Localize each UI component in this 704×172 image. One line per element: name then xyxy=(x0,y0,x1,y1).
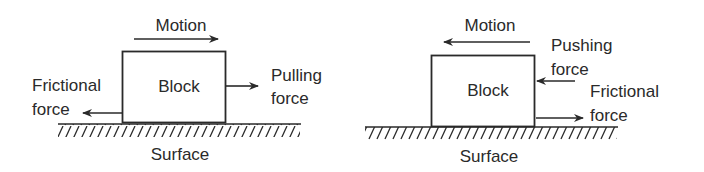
left-surface-hatching xyxy=(58,124,300,137)
right-motion-label: Motion xyxy=(464,16,515,35)
left-motion-label: Motion xyxy=(155,16,206,35)
left-friction-label-line2: force xyxy=(32,100,70,119)
left-pulling-force-label-line1: Pulling xyxy=(271,66,322,85)
left-block-label: Block xyxy=(158,77,200,96)
left-diagram-pulling: Motion Block Pulling force Frictional fo… xyxy=(32,16,322,164)
right-diagram-pushing: Motion Block Pushing force Frictional fo… xyxy=(365,16,659,166)
left-friction-label-line1: Frictional xyxy=(32,76,101,95)
right-pushing-force-label-line1: Pushing xyxy=(551,36,612,55)
friction-diagram: Motion Block Pulling force Frictional fo… xyxy=(0,0,704,172)
right-surface-hatching xyxy=(365,127,617,140)
right-surface-label: Surface xyxy=(460,147,519,166)
right-friction-label-line1: Frictional xyxy=(590,82,659,101)
right-block-label: Block xyxy=(467,81,509,100)
left-surface-label: Surface xyxy=(151,145,210,164)
left-pulling-force-label-line2: force xyxy=(271,89,309,108)
right-friction-label-line2: force xyxy=(590,106,628,125)
right-pushing-force-label-line2: force xyxy=(551,60,589,79)
